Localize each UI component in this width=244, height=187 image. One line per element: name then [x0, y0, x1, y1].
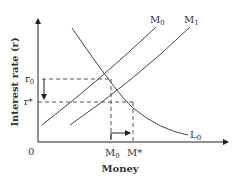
y-axis-title: Interest rate (r) — [9, 37, 20, 126]
x-axis-title: Money — [101, 163, 139, 174]
supply-curve-M1 — [70, 27, 190, 125]
tick-r-star: r* — [24, 97, 33, 107]
tick-M0: M0 — [105, 147, 120, 160]
tick-M-star: M* — [127, 147, 142, 158]
supply-curve-M0 — [42, 27, 156, 125]
label-M0: M0 — [150, 14, 165, 27]
money-shift-arrow — [111, 133, 130, 140]
demand-curve-L0 — [72, 28, 188, 135]
label-M1: M1 — [184, 14, 199, 27]
money-market-diagram: M0 M1 L0 r0 r* M0 M* 0 Money Interest ra… — [0, 0, 244, 187]
label-L0: L0 — [190, 129, 201, 142]
origin-label: 0 — [28, 146, 34, 157]
tick-r0: r0 — [25, 73, 34, 86]
